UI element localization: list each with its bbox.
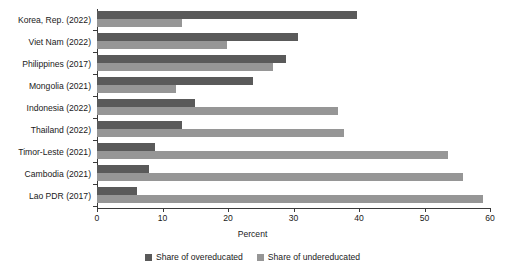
x-axis-tick [97,208,98,212]
bar-undereducated [97,19,182,27]
bar-overeducated [97,121,182,129]
chart-legend: Share of overeducatedShare of undereduca… [0,252,505,262]
x-axis-tick-label: 50 [405,213,445,223]
bar-group: Philippines (2017) [97,53,490,75]
x-axis-tick-label: 40 [339,213,379,223]
category-label: Korea, Rep. (2022) [0,9,91,31]
x-axis-tick [490,208,491,212]
bar-group: Lao PDR (2017) [97,185,490,207]
bar-undereducated [97,85,176,93]
bar-overeducated [97,11,357,19]
category-label: Viet Nam (2022) [0,31,91,53]
category-label: Thailand (2022) [0,119,91,141]
bar-group: Mongolia (2021) [97,75,490,97]
bar-undereducated [97,41,227,49]
bar-overeducated [97,33,298,41]
category-label: Timor-Leste (2021) [0,141,91,163]
x-axis-tick-label: 10 [143,213,183,223]
bar-group: Korea, Rep. (2022) [97,9,490,31]
bar-overeducated [97,55,286,63]
legend-label: Share of undereducated [268,252,360,262]
y-axis-tick [93,206,97,207]
category-label: Cambodia (2021) [0,163,91,185]
legend-swatch-icon [257,254,264,261]
x-axis-tick-label: 0 [77,213,117,223]
bar-overeducated [97,77,253,85]
bar-undereducated [97,151,448,159]
x-axis-tick [425,208,426,212]
category-label: Lao PDR (2017) [0,185,91,207]
x-axis-tick [163,208,164,212]
bar-undereducated [97,63,273,71]
x-axis-tick [359,208,360,212]
bar-group: Thailand (2022) [97,119,490,141]
x-axis-tick-label: 30 [274,213,314,223]
bar-chart: Korea, Rep. (2022)Viet Nam (2022)Philipp… [0,0,505,276]
legend-swatch-icon [145,254,152,261]
x-axis-label: Percent [0,229,505,239]
x-axis-tick-label: 20 [208,213,248,223]
bar-overeducated [97,99,195,107]
bar-group: Timor-Leste (2021) [97,141,490,163]
bar-undereducated [97,195,483,203]
category-label: Mongolia (2021) [0,75,91,97]
bar-group: Indonesia (2022) [97,97,490,119]
legend-item: Share of undereducated [257,252,360,262]
bar-overeducated [97,165,149,173]
legend-item: Share of overeducated [145,252,243,262]
bar-undereducated [97,107,338,115]
x-axis-tick [294,208,295,212]
bar-overeducated [97,143,155,151]
category-label: Philippines (2017) [0,53,91,75]
plot-area: Korea, Rep. (2022)Viet Nam (2022)Philipp… [97,9,490,207]
category-label: Indonesia (2022) [0,97,91,119]
x-axis-tick [228,208,229,212]
bar-undereducated [97,129,344,137]
bar-group: Cambodia (2021) [97,163,490,185]
legend-label: Share of overeducated [156,252,243,262]
bar-group: Viet Nam (2022) [97,31,490,53]
x-axis-tick-label: 60 [470,213,505,223]
bar-undereducated [97,173,463,181]
bar-overeducated [97,187,137,195]
